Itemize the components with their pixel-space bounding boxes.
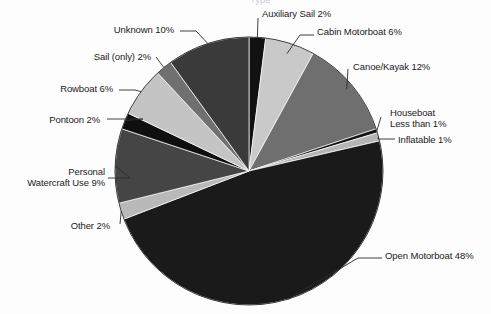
slice-label-auxiliary-sail: Auxiliary Sail 2% xyxy=(262,8,331,19)
leader-line-auxiliary-sail xyxy=(257,18,258,37)
leader-line-sail-only xyxy=(156,57,164,68)
slice-label-inflatable: Inflatable 1% xyxy=(398,134,452,145)
pie-chart-graphic xyxy=(0,0,491,314)
slice-label-canoe-kayak: Canoe/Kayak 12% xyxy=(353,61,430,72)
slice-label-unknown: Unknown 10% xyxy=(0,24,174,35)
slice-label-houseboat: Houseboat xyxy=(390,107,435,118)
slice-label-pontoon: Pontoon 2% xyxy=(0,114,100,125)
leader-line-inflatable xyxy=(378,137,395,139)
slice-label-cabin-motorboat: Cabin Motorboat 6% xyxy=(317,26,402,37)
pie-slices xyxy=(115,37,383,305)
slice-label-sail-only: Sail (only) 2% xyxy=(0,51,151,62)
slice-label-other: Other 2% xyxy=(0,220,110,231)
leader-line-other xyxy=(120,211,121,224)
pie-chart-page: Type Auxiliary Sail 2% Cabin Motorboat 6… xyxy=(0,0,491,314)
leader-line-rowboat xyxy=(119,90,141,92)
slice-label-personal-watercraft: Personal xyxy=(0,166,105,177)
slice-label-personal-watercraft-value: Watercraft Use 9% xyxy=(0,177,105,188)
leader-line-unknown xyxy=(180,31,208,44)
leader-line-houseboat xyxy=(377,117,381,131)
slice-label-rowboat: Rowboat 6% xyxy=(0,83,113,94)
slice-label-houseboat-value: Less than 1% xyxy=(390,118,446,129)
slice-label-open-motorboat: Open Motorboat 48% xyxy=(385,250,474,261)
